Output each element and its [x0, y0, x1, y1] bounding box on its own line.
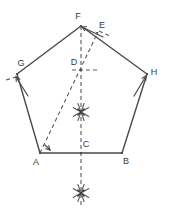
point-label-a: A — [33, 157, 39, 167]
point-label-e: E — [99, 20, 105, 30]
point-label-g: G — [17, 58, 24, 68]
edge-G-A — [17, 74, 40, 153]
short-dash-left-of-G — [6, 77, 16, 80]
pentagon-outline — [17, 26, 147, 153]
point-dot-g — [16, 73, 18, 75]
point-dot-e — [96, 32, 98, 34]
point-dot-h — [146, 73, 148, 75]
point-label-c: C — [83, 139, 90, 149]
vertex-labels: ABHFGCDE — [17, 11, 157, 167]
point-dot-b — [121, 152, 123, 154]
edge-B-H — [122, 74, 147, 153]
arrow-shaft — [134, 76, 146, 96]
construction-lines — [6, 26, 110, 205]
point-label-h: H — [151, 67, 158, 77]
point-dot-c — [80, 152, 82, 154]
tick-near-A — [45, 145, 50, 150]
edge-H-F — [81, 26, 147, 74]
geometry-figure: ABHFGCDE — [0, 0, 169, 211]
pentagon-construction-diagram: ABHFGCDE — [0, 0, 169, 211]
point-label-d: D — [71, 57, 78, 67]
point-label-f: F — [75, 11, 81, 21]
arrow-at-H — [134, 76, 146, 96]
point-label-b: B — [123, 156, 129, 166]
point-dot-f — [80, 25, 82, 27]
point-dot-d — [80, 69, 82, 71]
point-dot-a — [39, 152, 41, 154]
